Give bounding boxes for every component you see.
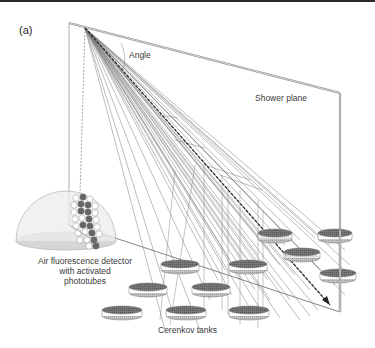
shower-diagram xyxy=(0,0,375,348)
tank xyxy=(229,306,269,320)
cerenkov-tanks xyxy=(102,229,356,320)
fluorescence-detector xyxy=(16,191,116,250)
detector-label-line2: with activated xyxy=(30,266,140,276)
tank xyxy=(102,306,142,320)
shower-plane-label: Shower plane xyxy=(255,93,307,103)
angle-label: Angle xyxy=(129,50,151,60)
tank xyxy=(258,229,292,243)
detector-label: Air fluorescence detector with activated… xyxy=(30,256,140,286)
tanks-label: Cerenkov tanks xyxy=(158,325,217,335)
tank xyxy=(284,248,320,262)
tank xyxy=(161,260,199,274)
panel-label: (a) xyxy=(19,25,32,35)
detector-label-line1: Air fluorescence detector xyxy=(30,256,140,266)
tank xyxy=(318,229,352,243)
tank xyxy=(229,260,267,274)
detector-label-line3: phototubes xyxy=(30,276,140,286)
tank xyxy=(166,306,206,320)
tank xyxy=(320,269,356,283)
detector-sightline xyxy=(80,28,85,195)
tank xyxy=(192,283,230,297)
